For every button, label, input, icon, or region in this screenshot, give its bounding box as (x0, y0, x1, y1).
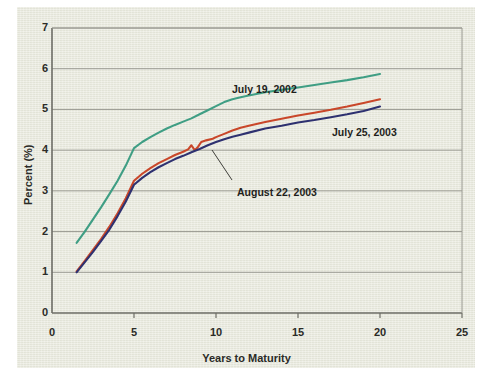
y-axis-title: Percent (%) (22, 144, 34, 205)
series-label-2: August 22, 2003 (237, 186, 317, 198)
x-tick-label-20: 20 (365, 326, 395, 338)
y-tick-label-3: 3 (36, 184, 48, 196)
y-tick-label-5: 5 (36, 102, 48, 114)
y-tick-label-7: 7 (36, 21, 48, 33)
series-line-0 (77, 74, 380, 243)
y-tick-label-1: 1 (36, 265, 48, 277)
x-tick-label-25: 25 (447, 326, 477, 338)
chart-figure: 01234567 0510152025 Percent (%) Years to… (0, 0, 493, 391)
grid-lines (52, 28, 462, 272)
y-tick-label-6: 6 (36, 62, 48, 74)
x-axis-title: Years to Maturity (0, 352, 493, 364)
data-series-group (77, 74, 380, 272)
axis-frame (52, 28, 462, 318)
x-tick-label-10: 10 (201, 326, 231, 338)
series-label-0: July 19, 2002 (232, 83, 297, 95)
leader-line-2 (212, 150, 232, 180)
x-tick-label-5: 5 (119, 326, 149, 338)
annotation-leader-lines (212, 150, 232, 180)
x-tick-label-0: 0 (37, 326, 67, 338)
y-tick-label-0: 0 (36, 306, 48, 318)
x-tick-label-15: 15 (283, 326, 313, 338)
series-label-1: July 25, 2003 (332, 126, 397, 138)
y-tick-label-4: 4 (36, 143, 48, 155)
y-tick-label-2: 2 (36, 225, 48, 237)
